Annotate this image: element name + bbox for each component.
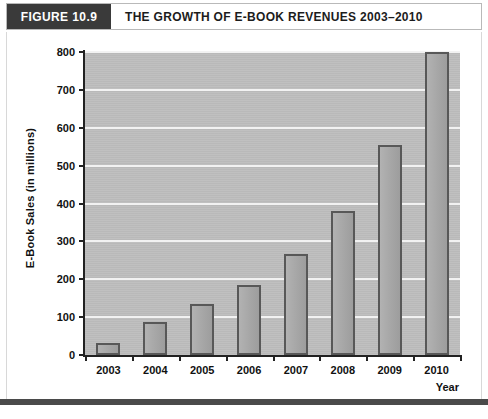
- bar-2010: [425, 52, 449, 355]
- y-tick-label: 400: [37, 198, 75, 210]
- y-tick-label: 600: [37, 122, 75, 134]
- gridline: [85, 89, 460, 91]
- x-tick-mark: [85, 355, 87, 361]
- y-tick-label: 700: [37, 84, 75, 96]
- x-tick-label: 2010: [415, 364, 459, 376]
- y-tick-label: 200: [37, 273, 75, 285]
- plot-area: [85, 52, 460, 355]
- bar-fill: [98, 345, 118, 353]
- bar-2007: [284, 254, 308, 356]
- y-tick-label: 100: [37, 311, 75, 323]
- bar-fill: [333, 213, 353, 353]
- y-tick-mark: [79, 203, 84, 205]
- y-tick-label: 0: [37, 349, 75, 361]
- x-tick-mark: [179, 355, 181, 361]
- bar-fill: [145, 324, 165, 353]
- figure-header: FIGURE 10.9 THE GROWTH OF E-BOOK REVENUE…: [6, 3, 482, 30]
- x-tick-label: 2008: [321, 364, 365, 376]
- bar-2006: [237, 285, 261, 355]
- y-tick-mark: [79, 278, 84, 280]
- gridline: [85, 278, 460, 280]
- bar-2003: [96, 343, 120, 355]
- x-axis-title: Year: [436, 381, 459, 393]
- x-tick-mark: [226, 355, 228, 361]
- bar-fill: [192, 306, 212, 353]
- bar-2004: [143, 322, 167, 355]
- y-tick-mark: [79, 316, 84, 318]
- bar-2008: [331, 211, 355, 355]
- x-tick-label: 2003: [86, 364, 130, 376]
- y-tick-label: 300: [37, 235, 75, 247]
- bar-fill: [427, 54, 447, 353]
- gridline: [85, 240, 460, 242]
- gridline: [85, 316, 460, 318]
- x-tick-label: 2009: [368, 364, 412, 376]
- gridline: [85, 165, 460, 167]
- chart-panel: E-Book Sales (in millions) 0100200300400…: [6, 32, 482, 404]
- bar-fill: [380, 147, 400, 353]
- y-axis-title-text: E-Book Sales (in millions): [24, 128, 36, 268]
- gridline: [85, 203, 460, 205]
- y-tick-label: 800: [37, 46, 75, 58]
- x-tick-mark: [273, 355, 275, 361]
- y-tick-mark: [79, 51, 84, 53]
- x-tick-mark: [319, 355, 321, 361]
- gridline: [85, 51, 460, 53]
- bar-2009: [378, 145, 402, 355]
- figure-container: FIGURE 10.9 THE GROWTH OF E-BOOK REVENUE…: [0, 0, 488, 419]
- y-tick-mark: [79, 89, 84, 91]
- x-tick-label: 2007: [274, 364, 318, 376]
- x-tick-label: 2005: [180, 364, 224, 376]
- x-tick-label: 2004: [133, 364, 177, 376]
- figure-number-badge: FIGURE 10.9: [7, 4, 111, 29]
- bar-2005: [190, 304, 214, 355]
- y-tick-mark: [79, 354, 84, 356]
- x-tick-label: 2006: [227, 364, 271, 376]
- y-tick-mark: [79, 240, 84, 242]
- footer-spacer: [0, 405, 488, 419]
- figure-title: THE GROWTH OF E-BOOK REVENUES 2003–2010: [111, 4, 481, 29]
- x-tick-mark: [366, 355, 368, 361]
- bar-fill: [239, 287, 259, 353]
- y-tick-mark: [79, 165, 84, 167]
- x-tick-mark: [413, 355, 415, 361]
- y-tick-label: 500: [37, 160, 75, 172]
- x-tick-mark: [132, 355, 134, 361]
- x-tick-mark: [460, 355, 462, 361]
- y-tick-mark: [79, 127, 84, 129]
- bar-fill: [286, 256, 306, 354]
- gridline: [85, 127, 460, 129]
